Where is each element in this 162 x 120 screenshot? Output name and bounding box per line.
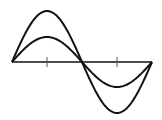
sine-wave-diagram	[0, 0, 162, 120]
